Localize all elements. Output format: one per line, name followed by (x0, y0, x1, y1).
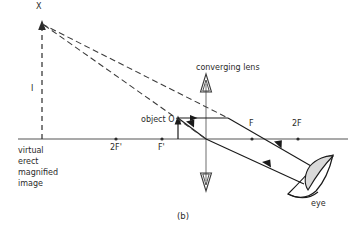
virtual-ray-lower-dashed (44, 25, 206, 139)
ray-parallel-refracted (228, 118, 318, 170)
focal-point-2F-prime-dot (114, 137, 117, 140)
label-focal-2F-prime: 2F' (110, 143, 122, 153)
label-focal-2F: 2F (292, 119, 302, 129)
focal-point-F-dot (250, 137, 253, 140)
image-description-line-2: erect (18, 156, 39, 167)
optics-ray-diagram-svg (0, 0, 361, 234)
label-object-O: object O (141, 115, 175, 125)
image-description-line-4: image (18, 178, 43, 189)
label-focal-F-prime: F' (158, 143, 165, 153)
label-image-point-X: X (36, 2, 41, 12)
figure-caption: (b) (177, 211, 189, 221)
label-converging-lens: converging lens (196, 63, 260, 73)
focal-point-F-prime-dot (160, 137, 163, 140)
focal-point-2F-dot (296, 137, 299, 140)
eye-lens-shape (305, 156, 333, 190)
ray-diagram-figure: X I object O converging lens 2F' F' F 2F… (0, 0, 361, 234)
image-description-line-1: virtual (18, 145, 44, 156)
image-description-line-3: magnified (18, 167, 58, 178)
ray-centre-emergent (206, 139, 304, 184)
label-eye: eye (311, 199, 326, 209)
label-focal-F: F (249, 119, 254, 129)
label-image-height-I: I (31, 84, 33, 94)
